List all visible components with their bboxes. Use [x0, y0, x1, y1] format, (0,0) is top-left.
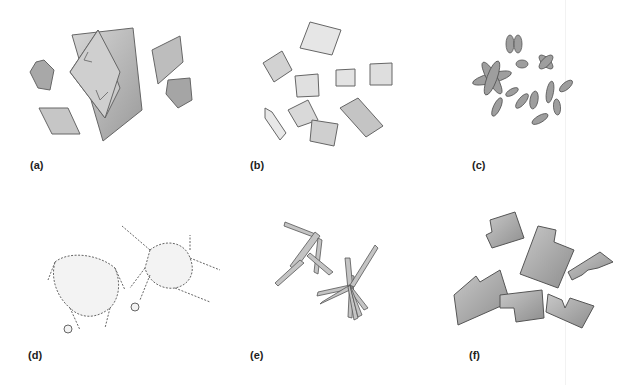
panel-a: (a)	[0, 0, 220, 190]
panel-e: (e)	[240, 190, 420, 385]
panel-c: (c)	[430, 0, 639, 190]
rod-particles-illustration	[430, 0, 639, 190]
panel-d: (d)	[0, 190, 240, 385]
needle-crystals-illustration	[240, 190, 420, 385]
panel-label-d: (d)	[28, 349, 42, 361]
panel-label-a: (a)	[30, 159, 43, 171]
panel-label-e: (e)	[250, 349, 263, 361]
blocky-plate-crystals-illustration	[430, 190, 639, 385]
panel-label-b: (b)	[250, 159, 264, 171]
panel-f: (f)	[430, 190, 639, 385]
panel-label-c: (c)	[472, 159, 485, 171]
panel-label-f: (f)	[469, 349, 480, 361]
panel-b: (b)	[220, 0, 430, 190]
